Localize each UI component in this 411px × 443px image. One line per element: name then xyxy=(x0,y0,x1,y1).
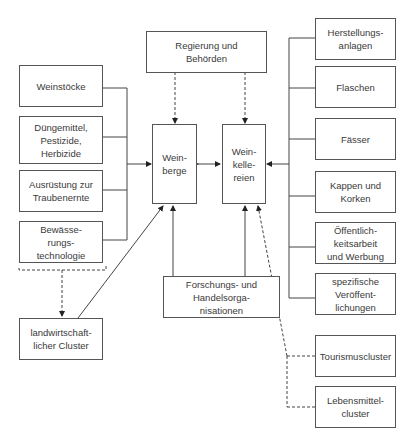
node-flaschen: Flaschen xyxy=(315,66,396,108)
node-herstellung: Herstellungs- anlagen xyxy=(315,18,396,60)
node-faesser-label: Fässer xyxy=(341,133,370,146)
node-weinberge-label: Wein- berge xyxy=(162,151,187,177)
node-herstellung-label: Herstellungs- anlagen xyxy=(328,26,384,52)
node-veroeffentlichungen-label: spezifische Veröffent- lichungen xyxy=(332,275,379,314)
node-weinberge: Wein- berge xyxy=(152,124,197,204)
node-tourismus: Tourismuscluster xyxy=(315,335,396,377)
node-landwirtschaft: landwirtschaft- licher Cluster xyxy=(19,318,103,360)
node-duengemittel-label: Düngemittel, Pestizide, Herbizide xyxy=(34,121,87,160)
node-forschung-label: Forschungs- und Handelsorga- nisationen xyxy=(186,278,257,317)
node-ausruestung: Ausrüstung zur Traubenernte xyxy=(19,170,103,212)
node-lebensmittel-label: Lebensmittel- cluster xyxy=(327,394,384,420)
node-weinkellereien-label: Wein- kelle- reien xyxy=(232,145,257,184)
node-kappen: Kappen und Korken xyxy=(315,171,396,213)
node-forschung: Forschungs- und Handelsorga- nisationen xyxy=(163,276,280,318)
node-bewaesserung-label: Bewässe- rungs- technologie xyxy=(37,223,86,262)
node-regierung-label: Regierung und Behörden xyxy=(175,39,237,65)
node-oeffentlichkeit-label: Öffentlich- keitsarbeit und Werbung xyxy=(327,224,384,263)
node-landwirtschaft-label: landwirtschaft- licher Cluster xyxy=(30,326,91,352)
node-flaschen-label: Flaschen xyxy=(336,81,375,94)
node-kappen-label: Kappen und Korken xyxy=(330,179,381,205)
node-weinstoecke-label: Weinstöcke xyxy=(37,80,86,93)
node-oeffentlichkeit: Öffentlich- keitsarbeit und Werbung xyxy=(315,222,396,264)
node-ausruestung-label: Ausrüstung zur Traubenernte xyxy=(29,178,93,204)
node-faesser: Fässer xyxy=(315,118,396,160)
node-regierung: Regierung und Behörden xyxy=(146,31,267,73)
node-veroeffentlichungen: spezifische Veröffent- lichungen xyxy=(315,273,396,315)
node-duengemittel: Düngemittel, Pestizide, Herbizide xyxy=(19,116,103,164)
node-tourismus-label: Tourismuscluster xyxy=(320,350,391,363)
node-weinstoecke: Weinstöcke xyxy=(19,65,103,107)
node-weinkellereien: Wein- kelle- reien xyxy=(222,124,266,204)
node-bewaesserung: Bewässe- rungs- technologie xyxy=(19,221,103,263)
node-lebensmittel: Lebensmittel- cluster xyxy=(315,386,396,428)
